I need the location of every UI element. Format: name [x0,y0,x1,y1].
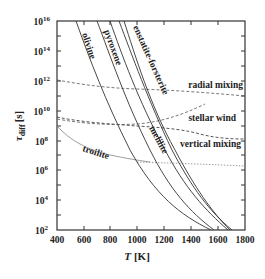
y-tick: 108 [35,135,49,147]
troilite-label: troilite [81,143,110,161]
x-tick: 600 [77,235,92,245]
diffusion-timescale-chart: 400 600 800 1000 1200 1400 1600 1800 102… [0,0,265,279]
olivine-label: olivine [80,32,98,61]
y-tick: 106 [35,164,49,176]
x-tick: 1000 [128,235,147,245]
vertical-mixing-lower-line [137,162,245,166]
x-tick: 400 [50,235,65,245]
y-tick: 102 [35,224,49,236]
y-axis-label: τdiff[s] [12,111,27,142]
y-tick: 1014 [34,45,51,57]
radial-mixing-label: radial mixing [188,80,243,90]
x-tick-labels: 400 600 800 1000 1200 1400 1600 1800 [50,235,255,245]
y-tick: 1012 [34,75,51,87]
y-tick: 1016 [34,15,51,27]
x-tick: 1400 [182,235,201,245]
stellar-wind-line [57,104,205,124]
y-tick-labels: 102 104 106 108 1010 1012 1014 1016 [34,15,51,236]
enstatite-forsterite-line-2 [119,21,232,230]
curve-labels: olivine pyroxene enstatite-forsterite me… [80,24,243,162]
pyroxene-label: pyroxene [102,28,124,66]
x-axis-label: T[K] [124,250,150,262]
x-tick: 1600 [209,235,228,245]
vertical-mixing-label: vertical mixing [180,139,241,149]
melilite-line [124,21,230,230]
y-tick: 1010 [34,105,51,117]
stellar-wind-label: stellar wind [188,113,236,123]
x-tick: 1800 [236,235,255,245]
x-tick: 800 [103,235,118,245]
y-tick: 104 [35,194,49,206]
x-tick: 1200 [155,235,174,245]
